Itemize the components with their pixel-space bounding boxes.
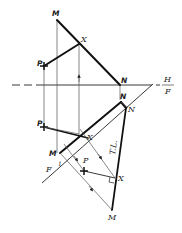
fold-label-f: F <box>164 87 171 96</box>
front-label-n: N <box>120 92 127 101</box>
fold-label-1-aux: 1 <box>58 160 62 167</box>
top-view: M X N P <box>37 9 128 85</box>
front-to-aux-p-projector <box>44 127 79 134</box>
aux-label-p: P <box>82 156 89 165</box>
fold-label-h: H <box>163 75 172 84</box>
fold-label-f-aux: F <box>45 165 52 174</box>
aux-label-x: X <box>117 174 124 183</box>
aux-label-true-length: T.L. <box>108 140 119 156</box>
front-label-m: M <box>49 149 57 158</box>
aux-point-p-cross-icon <box>80 167 88 175</box>
aux-projector-arrow-icon-1 <box>98 154 101 158</box>
projectors-f1 <box>60 102 128 210</box>
diagram-canvas: M X N P H F N P X M <box>0 0 182 233</box>
top-label-m: M <box>52 9 60 18</box>
front-label-x: X <box>86 133 93 142</box>
aux-line-mn-true-length <box>112 108 126 210</box>
top-label-x: X <box>80 35 87 44</box>
top-line-px <box>44 44 79 66</box>
aux-label-m: M <box>107 213 117 222</box>
top-label-p: P <box>37 59 43 68</box>
aux-view: N X P M T.L. <box>80 105 136 222</box>
f1-fold-line <box>42 84 153 183</box>
front-label-p: P <box>37 119 43 128</box>
top-label-n: N <box>121 76 128 85</box>
aux-label-n: N <box>127 105 136 114</box>
